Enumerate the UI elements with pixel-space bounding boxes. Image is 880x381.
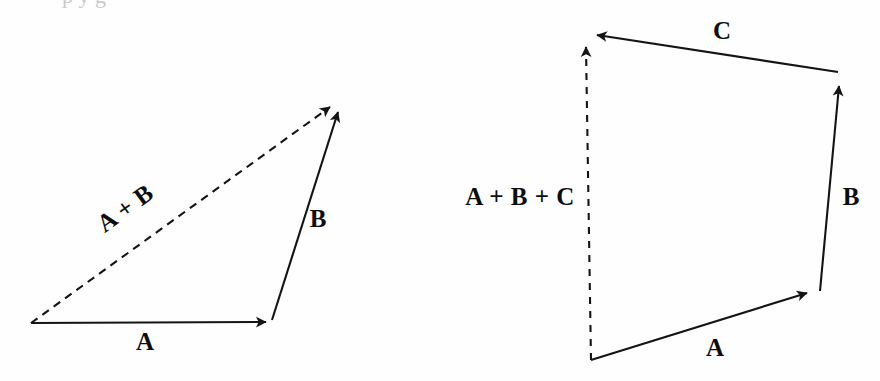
diagram-triangle-sum	[31, 107, 338, 323]
vector-arrow-a-right	[591, 293, 807, 360]
vector-label-c-right: C	[713, 18, 731, 43]
vector-arrow-a-plus-b-dashed	[31, 107, 330, 323]
vector-label-b-right: B	[843, 184, 860, 209]
diagram-quadrilateral-sum	[586, 35, 839, 360]
vector-arrow-a-plus-b-plus-c-dashed	[586, 47, 591, 360]
vector-label-a-right: A	[706, 335, 724, 360]
vector-label-b-left: B	[310, 206, 327, 231]
vector-arrow-a-left	[31, 322, 266, 323]
vector-label-a-plus-b-plus-c: A + B + C	[465, 184, 574, 209]
vector-arrow-b-left	[272, 112, 338, 320]
vector-addition-figure: p y g A B A +	[0, 0, 880, 381]
vector-label-a-left: A	[136, 329, 154, 354]
vector-arrow-b-right	[820, 86, 839, 291]
